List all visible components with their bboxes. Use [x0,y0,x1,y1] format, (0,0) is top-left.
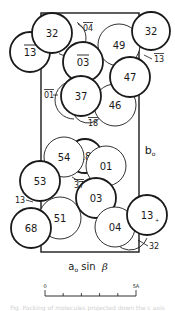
scale-end-label: 5A [133,283,140,289]
molecule-68: 68 [11,208,51,248]
molecule-label: 51 [54,213,67,224]
scale-bar: 05A [43,283,139,296]
height-label-text: 13 [154,55,164,64]
molecule-47: 47 [110,57,150,97]
height-label-18: 18 [88,118,98,128]
molecule-circles: 1349034618015132324737545303680413+ [10,12,170,248]
height-label-text: 37 [74,181,84,190]
molecule-32: 32 [132,12,170,50]
molecule-53: 53 [20,161,60,201]
molecule-label: 68 [25,223,38,234]
molecule-label: 32 [46,28,59,39]
molecule-37: 37 [61,76,101,116]
b-axis-label: bo [145,144,156,157]
height-label-text: 01 [44,91,54,100]
leader-line [144,55,152,59]
height-label-13: 13 [144,54,164,64]
molecule-label: 53 [34,176,47,187]
height-label-37: 37 [72,177,84,190]
subscript-mark: + [155,217,159,223]
height-label-text: 18 [88,119,98,128]
molecule-label: 46 [109,100,122,111]
a-axis-label: ao sin β [68,261,108,273]
molecule-label: 49 [113,40,126,51]
molecule-label: 13 [24,47,37,58]
molecule-label: 47 [124,72,137,83]
molecule-label: 04 [109,222,122,233]
molecule-label: 03 [90,193,103,204]
molecule-label: 32 [145,26,158,37]
molecule-13: 13+ [127,195,167,235]
height-label-text: 32 [149,242,159,251]
molecule-label: 37 [75,91,88,102]
crystal-packing-diagram: 1349034618015132324737545303680413+ 0413… [0,0,175,311]
molecule-label: 54 [58,152,71,163]
figure-caption: Fig. Packing of molecules projected down… [0,304,175,311]
molecule-label: 03 [77,57,90,68]
height-label-text: 13 [15,196,25,205]
height-label-32: 32 [138,240,159,251]
scale-start-label: 0 [43,283,46,289]
molecule-label: 13 [141,210,154,221]
height-label-text: 04 [83,24,93,33]
leader-line [26,200,33,202]
molecule-32: 32 [32,13,72,53]
height-label-04: 04 [78,23,93,33]
molecule-label: 01 [100,161,113,172]
